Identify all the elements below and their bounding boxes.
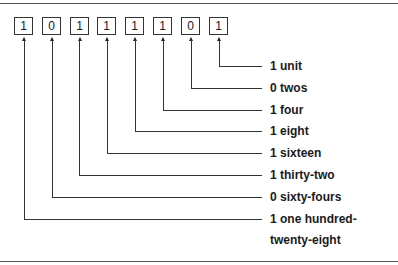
connector-unit	[219, 38, 220, 66]
bit-box-16: 1	[97, 17, 116, 35]
top-rule	[0, 3, 398, 4]
connector-sixteen-h	[107, 153, 262, 154]
bit-box-32: 1	[70, 17, 89, 35]
connector-128-h	[24, 219, 262, 220]
connector-four	[163, 38, 164, 110]
bit-box-1: 1	[209, 17, 228, 35]
connector-thirty-two	[79, 38, 80, 175]
connector-eight	[135, 38, 136, 131]
bit-box-128: 1	[14, 17, 33, 35]
label-sixty-fours: 0 sixty-fours	[270, 186, 341, 208]
connector-four-h	[163, 110, 262, 111]
label-thirty-two: 1 thirty-two	[270, 164, 335, 186]
bit-box-2: 0	[181, 17, 200, 35]
bit-box-8: 1	[125, 17, 144, 35]
bit-box-4: 1	[153, 17, 172, 35]
connector-128	[24, 38, 25, 219]
connector-sixteen	[107, 38, 108, 153]
label-sixteen: 1 sixteen	[270, 142, 321, 164]
connector-twos	[191, 38, 192, 88]
connector-eight-h	[135, 131, 262, 132]
connector-sixty-fours-h	[52, 197, 262, 198]
label-128-line2: twenty-eight	[270, 229, 341, 251]
connector-thirty-two-h	[79, 175, 262, 176]
bottom-rule	[0, 261, 398, 262]
label-eight: 1 eight	[270, 120, 309, 142]
label-unit: 1 unit	[270, 55, 302, 77]
label-twos: 0 twos	[270, 77, 307, 99]
connector-sixty-fours	[52, 38, 53, 197]
label-four: 1 four	[270, 99, 303, 121]
bit-box-64: 0	[42, 17, 61, 35]
label-128-line1: 1 one hundred-	[270, 208, 357, 230]
connector-unit-h	[219, 66, 262, 67]
connector-twos-h	[191, 88, 262, 89]
